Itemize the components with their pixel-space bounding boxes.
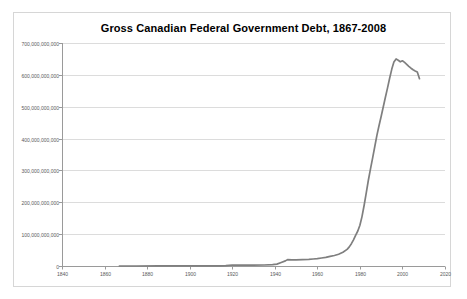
x-tick-label: 1980 [355, 271, 366, 277]
x-tick-label: 1880 [142, 271, 153, 277]
y-tick-label: 700,000,000,000 [21, 41, 59, 47]
x-tick-label: 1940 [270, 271, 281, 277]
chart-canvas: Gross Canadian Federal Government Debt, … [0, 0, 467, 299]
x-tick-label: 1860 [100, 271, 111, 277]
y-tick-label: 0 [56, 264, 59, 270]
y-tick-label: 500,000,000,000 [21, 105, 59, 111]
x-tick-label: 1920 [227, 271, 238, 277]
y-tick-label: 400,000,000,000 [21, 137, 59, 143]
x-tick-label: 1960 [312, 271, 323, 277]
debt-line-chart: 0100,000,000,000200,000,000,000300,000,0… [0, 0, 467, 299]
y-tick-label: 100,000,000,000 [21, 232, 59, 238]
x-tick-label: 2020 [440, 271, 451, 277]
y-tick-label: 600,000,000,000 [21, 73, 59, 79]
x-tick-label: 1840 [57, 271, 68, 277]
y-tick-label: 300,000,000,000 [21, 168, 59, 174]
x-tick-label: 1900 [185, 271, 196, 277]
x-tick-label: 2000 [397, 271, 408, 277]
y-tick-label: 200,000,000,000 [21, 200, 59, 206]
